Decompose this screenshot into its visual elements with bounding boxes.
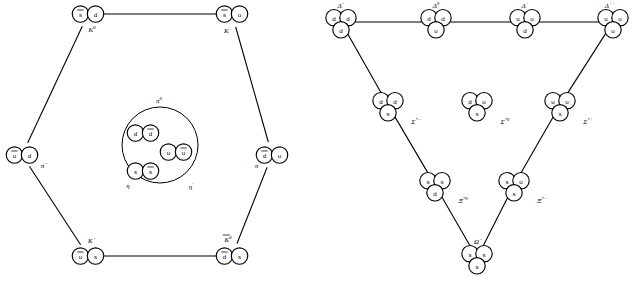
quark-piminus-d: d [21, 147, 37, 163]
svg-text:d: d [223, 253, 227, 260]
edge-Splus-Ximinus [521, 117, 554, 174]
svg-text:u: u [519, 178, 523, 185]
svg-text:Ω−: Ω− [474, 237, 482, 246]
svg-text:K0: K0 [224, 235, 233, 244]
svg-text:s: s [238, 253, 241, 260]
svg-text:u: u [182, 149, 186, 156]
svg-text:s: s [475, 263, 478, 270]
particle-label-piplus: π+ [255, 161, 262, 170]
center-label-0: π0 [156, 96, 163, 105]
particle-node-S0[interactable]: dus [462, 93, 492, 121]
svg-text:η′: η′ [189, 182, 194, 191]
svg-text:Σ*+: Σ*+ [582, 117, 593, 126]
svg-text:d: d [339, 27, 343, 34]
svg-text:Ξ*0: Ξ*0 [458, 196, 468, 205]
particle-node-piminus[interactable]: ud [6, 147, 37, 163]
particle-node-Kminus[interactable]: us [72, 248, 103, 264]
particle-label-K0: K0 [88, 25, 97, 34]
quark-Sminus-s: s [380, 105, 396, 121]
svg-text:Δ−: Δ− [336, 1, 344, 10]
particle-label-Xi0: Ξ*0 [458, 196, 468, 205]
svg-text:u: u [604, 15, 608, 22]
svg-text:d: d [379, 98, 383, 105]
svg-text:s: s [426, 178, 429, 185]
svg-text:u: u [278, 152, 282, 159]
quark-multiplet-diagram: dduuss sdsuudduusdsddddduuuduuuddsdusuus… [0, 0, 633, 295]
svg-text:s: s [512, 190, 515, 197]
quark-pair0-d-bar: d [142, 125, 158, 141]
quark-piplus-u: u [271, 147, 287, 163]
particle-node-Xi0[interactable]: ssd [420, 173, 450, 201]
quark-pair-2[interactable]: ss [127, 163, 158, 179]
particle-label-D0: Δ0 [432, 1, 440, 10]
particle-label-Dminus: Δ− [336, 1, 344, 10]
particle-label-Kplus: K+ [223, 26, 232, 35]
quark-piminus-u-bar: u [6, 147, 22, 163]
quark-pair-0[interactable]: dd [127, 125, 158, 141]
particle-label-piminus: π− [41, 161, 48, 170]
quark-K0bar-s: s [231, 248, 247, 264]
svg-text:d: d [134, 130, 138, 137]
svg-text:d: d [393, 98, 397, 105]
quark-Ximinus-s: s [506, 185, 522, 201]
particle-label-K0bar: K0 [223, 235, 232, 244]
svg-text:d: d [263, 152, 267, 159]
quark-Omega-s: s [469, 258, 485, 274]
quark-Xi0-d: d [427, 185, 443, 201]
particle-label-Sminus: Σ*− [410, 117, 421, 126]
quark-K0-d: d [87, 6, 103, 22]
particle-labels-layer: K0K+π−π+K−K0π0ηη′Δ−Δ0Δ+Δ++Σ*−Σ*0Σ*+Ξ*0Ξ*… [41, 1, 615, 246]
particle-node-Kplus[interactable]: su [216, 6, 247, 22]
meson-center-circle-layer: dduuss [122, 107, 198, 183]
quark-Dminus-d: d [333, 22, 349, 38]
quark-pair0-d: d [127, 125, 143, 141]
particle-label-Splus: Σ*+ [582, 117, 593, 126]
edge-piminus-Kminus [29, 166, 80, 244]
svg-text:Δ+: Δ+ [520, 1, 528, 10]
svg-text:d: d [94, 11, 98, 18]
particle-node-D0[interactable]: ddu [421, 10, 451, 38]
particle-label-Omega: Ω− [474, 237, 482, 246]
particle-node-Ximinus[interactable]: sus [499, 173, 529, 201]
svg-text:d: d [468, 98, 472, 105]
center-label-1: η [126, 182, 130, 190]
particle-node-Dplusplus[interactable]: uuu [598, 10, 628, 38]
particle-node-K0bar[interactable]: ds [216, 248, 247, 264]
svg-text:u: u [434, 27, 438, 34]
quark-pair-1[interactable]: uu [160, 144, 191, 160]
quark-pair2-s-bar: s [142, 163, 158, 179]
particle-node-Dplus[interactable]: uud [510, 10, 540, 38]
svg-text:d: d [427, 15, 431, 22]
edge-Dminus-Sminus [348, 34, 382, 94]
svg-text:d: d [523, 27, 527, 34]
svg-text:Δ0: Δ0 [432, 1, 440, 10]
svg-text:d: d [332, 15, 336, 22]
quark-Dplus-d: d [517, 22, 533, 38]
particle-node-K0[interactable]: sd [72, 6, 103, 22]
quark-pair1-u: u [160, 144, 176, 160]
particle-node-Splus[interactable]: uus [545, 93, 575, 121]
edge-Dplusplus-Splus [567, 33, 605, 93]
svg-text:d: d [433, 190, 437, 197]
particle-label-S0: Σ*0 [500, 117, 510, 126]
svg-text:s: s [94, 253, 97, 260]
svg-text:u: u [530, 15, 534, 22]
particle-node-Omega[interactable]: sss [462, 246, 492, 274]
particle-node-Sminus[interactable]: dds [373, 93, 403, 121]
svg-text:Δ++: Δ++ [604, 1, 615, 10]
edge-Ximinus-Omega [483, 197, 508, 246]
quark-Dplusplus-u: u [605, 22, 621, 38]
quark-S0-s: s [469, 105, 485, 121]
svg-text:π+: π+ [255, 161, 262, 170]
particle-node-Dminus[interactable]: ddd [326, 10, 356, 38]
svg-text:Ξ*−: Ξ*− [537, 196, 547, 205]
svg-text:u: u [516, 15, 520, 22]
svg-text:u: u [13, 152, 17, 159]
edge-Kplus-piplus [236, 27, 269, 142]
center-label-2: η′ [189, 182, 194, 191]
svg-text:s: s [558, 110, 561, 117]
particle-label-Dplus: Δ+ [520, 1, 528, 10]
quark-Kminus-s: s [87, 248, 103, 264]
svg-text:K0: K0 [88, 25, 97, 34]
svg-text:u: u [238, 11, 242, 18]
